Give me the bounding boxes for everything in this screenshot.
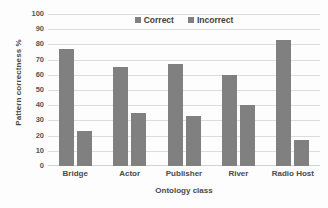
bar[interactable] — [294, 140, 309, 166]
x-tick-label: Bridge — [48, 169, 102, 178]
y-tick-label: 80 — [18, 41, 44, 49]
bar[interactable] — [131, 113, 146, 166]
bar[interactable] — [168, 64, 183, 166]
y-tick-label: 90 — [18, 25, 44, 33]
y-tick-label: 40 — [18, 101, 44, 109]
y-tick-label: 0 — [18, 162, 44, 170]
y-tick-label: 60 — [18, 71, 44, 79]
y-tick-label: 100 — [18, 10, 44, 18]
bar-group — [211, 14, 265, 166]
legend-item[interactable]: Incorrect — [188, 16, 233, 25]
bar[interactable] — [113, 67, 128, 166]
y-axis-ticks: 0102030405060708090100 — [18, 14, 44, 166]
bar-group — [157, 14, 211, 166]
legend-swatch-icon — [135, 17, 141, 23]
bar[interactable] — [186, 116, 201, 166]
y-tick-label: 20 — [18, 132, 44, 140]
bar[interactable] — [77, 131, 92, 166]
bar-chart: Pattern correctness % 010203040506070809… — [0, 0, 328, 208]
bar-group — [102, 14, 156, 166]
bar[interactable] — [240, 105, 255, 166]
bar-group — [48, 14, 102, 166]
bar[interactable] — [276, 40, 291, 166]
bar[interactable] — [59, 49, 74, 166]
chart-legend: CorrectIncorrect — [48, 16, 320, 25]
x-tick-label: Publisher — [157, 169, 211, 178]
x-axis-title: Ontology class — [48, 186, 320, 195]
x-tick-label: River — [211, 169, 265, 178]
legend-item[interactable]: Correct — [135, 16, 174, 25]
legend-swatch-icon — [188, 17, 194, 23]
y-tick-label: 70 — [18, 56, 44, 64]
legend-label: Correct — [144, 16, 174, 25]
x-tick-label: Actor — [102, 169, 156, 178]
x-tick-label: Radio Host — [266, 169, 320, 178]
bar[interactable] — [222, 75, 237, 166]
bar-group — [266, 14, 320, 166]
legend-label: Incorrect — [197, 16, 233, 25]
y-tick-label: 10 — [18, 147, 44, 155]
y-tick-label: 50 — [18, 86, 44, 94]
bars-layer — [48, 14, 320, 166]
y-tick-label: 30 — [18, 117, 44, 125]
x-axis-ticks: BridgeActorPublisherRiverRadio Host — [48, 169, 320, 178]
